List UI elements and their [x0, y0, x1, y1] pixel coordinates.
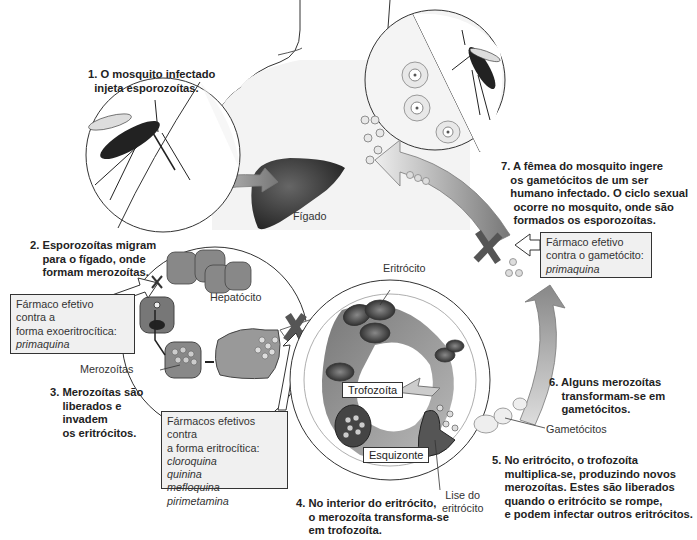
- drug-box-line: contra o gametócito:: [546, 249, 646, 262]
- label-lysis: Lise do eritrócito: [442, 489, 483, 515]
- drug-name: quinina: [167, 468, 282, 481]
- label-erythrocyte: Eritrócito: [383, 262, 426, 275]
- label-gametocytes: Gametócitos: [546, 423, 607, 436]
- drug-name: primaquina: [16, 338, 129, 351]
- step-1-text: 1. O mosquito infectado injeta esporozoí…: [88, 68, 215, 95]
- step-6-text: 6. Alguns merozoítas transformam-se em g…: [549, 376, 665, 417]
- drug-name: cloroquina: [167, 455, 282, 468]
- label-liver: Fígado: [293, 210, 327, 223]
- step-7-text: 7. A fêmea do mosquito ingere os gametóc…: [501, 160, 688, 228]
- drug-box-line: a forma eritrocítica:: [167, 442, 282, 455]
- step-3-text: 3. Merozoítas são liberados e invadem os…: [50, 386, 143, 440]
- drug-box-line: Fármaco efetivo: [16, 298, 129, 311]
- drug-box-line: Fármaco efetivo: [546, 236, 646, 249]
- drug-box-line: Fármacos efetivos contra: [167, 415, 282, 442]
- mosquito-bite-circle: [86, 78, 240, 232]
- drug-name: mefloquina: [167, 481, 282, 494]
- drug-name: pirimetamina: [167, 495, 282, 508]
- label-schizont: Esquizonte: [363, 447, 429, 463]
- gametocytes-near-x: [506, 259, 523, 277]
- pointer-gametocyte-box: [515, 234, 540, 256]
- step-2-text: 2. Esporozoítas migram para o fígado, on…: [30, 239, 156, 280]
- label-hepatocyte: Hepatócito: [210, 291, 262, 304]
- drug-box-gametocyte: Fármaco efetivo contra o gametócito: pri…: [540, 232, 652, 278]
- drug-name: primaquina: [546, 263, 646, 276]
- drug-box-line: forma exoeritrocítica:: [16, 325, 129, 338]
- drug-box-erythrocytic: Fármacos efetivos contra a forma eritroc…: [161, 411, 288, 489]
- step-5-text: 5. No eritrócito, o trofozoíta multiplic…: [492, 454, 693, 522]
- label-merozoites: Merozoítas: [80, 363, 133, 376]
- step-4-text: 4. No interior do eritrócito, o merozoít…: [296, 497, 449, 538]
- drug-box-exoerythrocytic: Fármaco efetivo contra a forma exoeritro…: [10, 294, 135, 354]
- drug-box-line: contra a: [16, 311, 129, 324]
- label-trophozoite: Trofozoíta: [342, 382, 403, 398]
